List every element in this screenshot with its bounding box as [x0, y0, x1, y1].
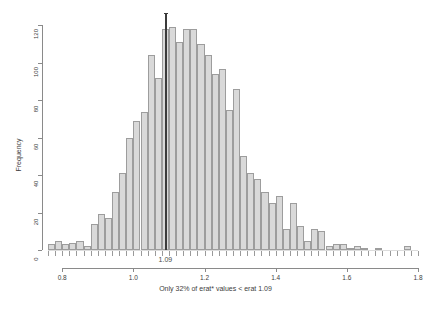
- bin-edge-tick: [148, 251, 149, 256]
- histogram-bar: [91, 224, 98, 250]
- bin-edge-tick: [62, 251, 63, 256]
- y-axis-line: [42, 25, 43, 250]
- histogram-bar: [69, 243, 76, 250]
- histogram-bar: [340, 244, 347, 250]
- bin-edge-tick: [361, 251, 362, 256]
- histogram-bar: [318, 231, 325, 250]
- histogram-bar: [269, 203, 276, 250]
- bin-edge-tick: [333, 251, 334, 256]
- bin-edge-tick: [91, 251, 92, 256]
- histogram-bar: [276, 196, 283, 250]
- y-axis-tick-label: 100: [33, 62, 39, 82]
- histogram-bar: [105, 218, 112, 250]
- x-axis-tick-label: 1.0: [118, 274, 148, 281]
- histogram-bar: [290, 203, 297, 250]
- histogram-bar: [84, 246, 91, 250]
- bin-edge-tick: [269, 251, 270, 256]
- x-axis-tick-label: 1.6: [332, 274, 362, 281]
- bin-edge-tick: [226, 251, 227, 256]
- x-axis-line: [62, 268, 418, 269]
- bin-edge-tick: [368, 251, 369, 256]
- histogram-bar: [326, 246, 333, 250]
- histogram-bar: [155, 78, 162, 250]
- bin-edge-tick: [304, 251, 305, 256]
- histogram-bar: [190, 29, 197, 250]
- y-axis-tick-label: 0: [33, 249, 39, 269]
- bin-edge-tick: [382, 251, 383, 256]
- histogram-bar: [254, 179, 261, 250]
- x-axis-tick: [347, 268, 348, 272]
- bin-edge-tick: [247, 251, 248, 256]
- histogram-bar: [247, 173, 254, 250]
- bin-edge-tick: [283, 251, 284, 256]
- histogram-bar: [48, 244, 55, 250]
- bin-edge-tick: [354, 251, 355, 256]
- histogram-bar: [112, 192, 119, 250]
- histogram-bar: [98, 214, 105, 250]
- histogram-bar: [183, 29, 190, 250]
- bin-edge-tick: [261, 251, 262, 256]
- bin-edge-tick: [311, 251, 312, 256]
- bin-edge-tick: [212, 251, 213, 256]
- x-axis-tick: [418, 268, 419, 272]
- bin-edge-tick: [254, 251, 255, 256]
- bin-edge-tick: [318, 251, 319, 256]
- bin-edge-tick: [197, 251, 198, 256]
- bin-edge-tick: [105, 251, 106, 256]
- histogram-bar: [347, 248, 354, 250]
- y-axis-tick-label: 80: [33, 99, 39, 119]
- bin-edge-tick: [98, 251, 99, 256]
- erat-reference-line-label: 1.09: [145, 256, 185, 263]
- histogram-bar: [304, 241, 311, 250]
- bin-edge-tick: [347, 251, 348, 256]
- histogram-bar: [311, 229, 318, 250]
- histogram-bar: [226, 110, 233, 250]
- x-axis-caption: Only 32% of erat* values < erat 1.09: [0, 285, 431, 292]
- bin-edge-tick: [190, 251, 191, 256]
- erat-reference-line: [165, 14, 166, 250]
- bin-edge-tick: [55, 251, 56, 256]
- bin-edge-tick: [176, 251, 177, 256]
- histogram-bar: [119, 173, 126, 250]
- bin-edge-tick: [69, 251, 70, 256]
- histogram-bar: [404, 246, 411, 250]
- x-axis-tick-label: 1.4: [261, 274, 291, 281]
- bin-edge-tick: [126, 251, 127, 256]
- bin-edge-tick: [119, 251, 120, 256]
- x-axis-tick-label: 0.8: [47, 274, 77, 281]
- x-axis-tick-label: 1.2: [190, 274, 220, 281]
- histogram-bar: [133, 121, 140, 250]
- bin-edge-tick: [340, 251, 341, 256]
- y-axis-tick-label: 40: [33, 174, 39, 194]
- histogram-plot: Frequency 020406080100120 1.09 0.81.01.2…: [0, 0, 431, 309]
- histogram-bar: [261, 192, 268, 250]
- bin-edge-tick: [297, 251, 298, 256]
- histogram-bar: [76, 241, 83, 250]
- histogram-bar: [55, 241, 62, 250]
- bin-edge-tick: [183, 251, 184, 256]
- x-axis-tick: [205, 268, 206, 272]
- bin-edge-tick: [84, 251, 85, 256]
- histogram-bar: [297, 226, 304, 250]
- bin-edge-tick: [404, 251, 405, 256]
- histogram-bar: [361, 248, 368, 250]
- x-axis-tick-label: 1.8: [403, 274, 431, 281]
- x-axis-tick: [62, 268, 63, 272]
- histogram-bar: [62, 244, 69, 250]
- bin-edge-tick: [290, 251, 291, 256]
- bin-edge-tick: [141, 251, 142, 256]
- bin-edge-tick: [411, 251, 412, 256]
- bin-edge-tick: [233, 251, 234, 256]
- y-axis-title: Frequency: [15, 112, 22, 172]
- histogram-bar: [148, 55, 155, 250]
- histogram-bar: [197, 44, 204, 250]
- bin-edge-tick: [76, 251, 77, 256]
- histogram-bar: [126, 138, 133, 250]
- erat-reference-line-cap: [164, 13, 168, 14]
- bin-edge-tick: [240, 251, 241, 256]
- histogram-bar: [205, 55, 212, 250]
- bin-edge-tick: [219, 251, 220, 256]
- histogram-bar: [141, 112, 148, 250]
- bin-edge-tick: [276, 251, 277, 256]
- bin-edge-tick: [48, 251, 49, 256]
